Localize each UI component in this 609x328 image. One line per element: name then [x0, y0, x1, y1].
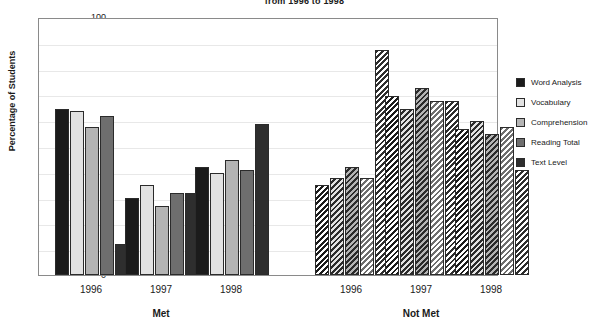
bar-text-level	[515, 170, 529, 275]
chart-title: from 1996 to 1998	[0, 0, 609, 6]
bar-text-level	[255, 124, 269, 275]
legend-label: Word Analysis	[531, 78, 582, 87]
x-tick-label: 1998	[201, 284, 261, 295]
bar-reading-total	[500, 127, 514, 275]
bar-word-analysis	[455, 129, 469, 275]
bar-comprehension	[85, 127, 99, 275]
bar-group-1997-not_met	[385, 19, 460, 275]
bar-chart: from 1996 to 1998 Percentage of Students…	[0, 0, 609, 328]
bar-word-analysis	[385, 96, 399, 275]
bar-comprehension	[415, 88, 429, 275]
bar-comprehension	[485, 134, 499, 275]
bar-vocabulary	[400, 109, 414, 275]
legend-swatch-icon	[516, 118, 525, 127]
bar-word-analysis	[55, 109, 69, 275]
bar-reading-total	[100, 116, 114, 275]
x-tick-label: 1997	[391, 284, 451, 295]
legend-item-text-level[interactable]: Text Level	[516, 158, 608, 167]
section-label-not-met: Not Met	[361, 308, 481, 319]
y-axis-label: Percentage of Students	[7, 31, 17, 171]
x-tick-label: 1998	[461, 284, 521, 295]
bar-reading-total	[360, 178, 374, 275]
bar-comprehension	[345, 167, 359, 275]
x-tick-label: 1996	[61, 284, 121, 295]
bar-group-1996-not_met	[315, 19, 390, 275]
legend-label: Comprehension	[531, 118, 587, 127]
legend-item-vocabulary[interactable]: Vocabulary	[516, 98, 608, 107]
legend-item-comprehension[interactable]: Comprehension	[516, 118, 608, 127]
bar-word-analysis	[195, 167, 209, 275]
bar-reading-total	[170, 193, 184, 275]
legend-label: Vocabulary	[531, 98, 571, 107]
bar-vocabulary	[210, 173, 224, 275]
legend-label: Reading Total	[531, 138, 580, 147]
bar-word-analysis	[125, 198, 139, 275]
bar-vocabulary	[70, 111, 84, 275]
bar-groups	[39, 19, 497, 275]
bar-reading-total	[430, 101, 444, 275]
bar-word-analysis	[315, 185, 329, 275]
bar-comprehension	[155, 206, 169, 275]
x-tick-label: 1997	[131, 284, 191, 295]
legend-label: Text Level	[531, 158, 567, 167]
legend: Word AnalysisVocabularyComprehensionRead…	[516, 78, 608, 178]
bar-comprehension	[225, 160, 239, 275]
legend-item-word-analysis[interactable]: Word Analysis	[516, 78, 608, 87]
bar-vocabulary	[330, 178, 344, 275]
legend-swatch-icon	[516, 98, 525, 107]
bar-reading-total	[240, 170, 254, 275]
bar-group-1996-met	[55, 19, 130, 275]
legend-swatch-icon	[516, 78, 525, 87]
legend-swatch-icon	[516, 138, 525, 147]
bar-group-1997-met	[125, 19, 200, 275]
legend-swatch-icon	[516, 158, 525, 167]
bar-vocabulary	[140, 185, 154, 275]
bar-group-1998-met	[195, 19, 270, 275]
section-label-met: Met	[101, 308, 221, 319]
legend-item-reading-total[interactable]: Reading Total	[516, 138, 608, 147]
x-tick-label: 1996	[321, 284, 381, 295]
plot-area	[38, 18, 498, 276]
bar-vocabulary	[470, 121, 484, 275]
